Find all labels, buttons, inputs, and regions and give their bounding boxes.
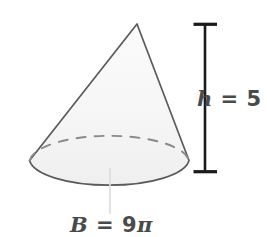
- cone-diagram-svg: [0, 0, 267, 237]
- base-variable: B: [70, 212, 88, 237]
- base-value: 9: [122, 213, 137, 237]
- base-area-label: B = 9π: [70, 212, 153, 237]
- base-equals: =: [88, 213, 122, 237]
- height-variable: h: [197, 86, 213, 111]
- cone-figure: h = 5 B = 9π: [0, 0, 267, 237]
- height-equals: =: [213, 87, 247, 111]
- height-label: h = 5: [197, 86, 262, 111]
- height-value: 5: [247, 87, 262, 111]
- cone-body-outline: [30, 24, 189, 185]
- pi-symbol: π: [137, 212, 153, 237]
